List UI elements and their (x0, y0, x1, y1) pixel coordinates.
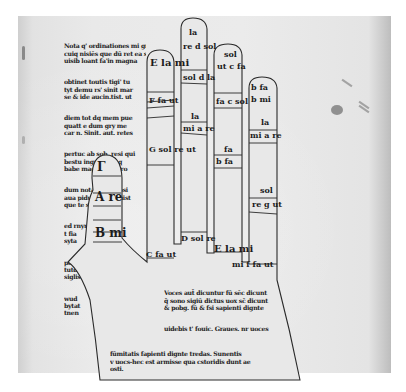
guidonian-hand-outline (0, 0, 406, 392)
thumb-label-gamma: Γ (97, 163, 106, 172)
ring-label-ut-c-fa: ut c fa (217, 62, 246, 71)
little-label-mi-f-fa-ut: mi f fa ut (232, 260, 273, 269)
little-label-la: la (261, 118, 269, 127)
middle-label-sol-d-la: sol d la (183, 73, 215, 82)
ring-label-e-la-mi: E la mi (214, 244, 253, 253)
middle-label-la-2: la (191, 112, 199, 121)
index-label-g-sol-re-ut: G sol re ut (149, 145, 196, 154)
little-label-re-g-ut: re g ut (252, 200, 282, 209)
middle-label-mi-a-re: mi a re (183, 124, 215, 133)
ring-label-fa-c-sol: fa c sol (216, 97, 248, 106)
middle-label-la: la (189, 28, 197, 37)
thumb-label-a-re: A re (95, 193, 122, 202)
thumb-label-b-mi: B mi (95, 229, 127, 238)
little-label-b-mi: b mi (251, 95, 271, 104)
palm-text: Voces aut̄ dicuntur fū sēc dicuntq̄ sono… (164, 275, 336, 333)
middle-label-re-d-sol: re d sol (183, 42, 216, 51)
middle-label-d-sol-re: D sol re (181, 234, 216, 243)
index-label-c-fa-ut: C fa ut (146, 250, 176, 259)
little-label-mi-a-re: mi a re (250, 131, 282, 140)
palm-text-bottom: fūmitatis fapienti dignte tredas. Sunent… (110, 336, 260, 372)
index-label-f-fa-ut: F fa ut (149, 96, 178, 105)
little-label-b-fa: b fa (251, 83, 268, 92)
ring-label-sol: sol (224, 50, 237, 59)
little-label-sol: sol (260, 186, 273, 195)
index-label-e-la-mi: E la mi (150, 58, 189, 67)
ring-label-b-fa: b fa (216, 157, 233, 166)
ring-label-fa: fa (224, 145, 233, 154)
